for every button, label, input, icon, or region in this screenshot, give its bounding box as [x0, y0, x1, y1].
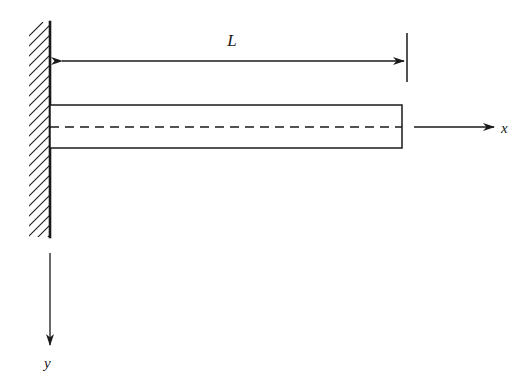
- diagram-canvas: L x y: [0, 0, 532, 381]
- y-axis: y: [42, 253, 51, 371]
- x-axis: x: [414, 120, 508, 136]
- cantilever-beam-figure: L x y: [0, 0, 532, 381]
- length-dimension: L: [62, 31, 407, 82]
- beam: [50, 105, 402, 148]
- length-label: L: [226, 31, 236, 50]
- y-axis-label: y: [42, 355, 51, 371]
- x-axis-label: x: [500, 120, 508, 136]
